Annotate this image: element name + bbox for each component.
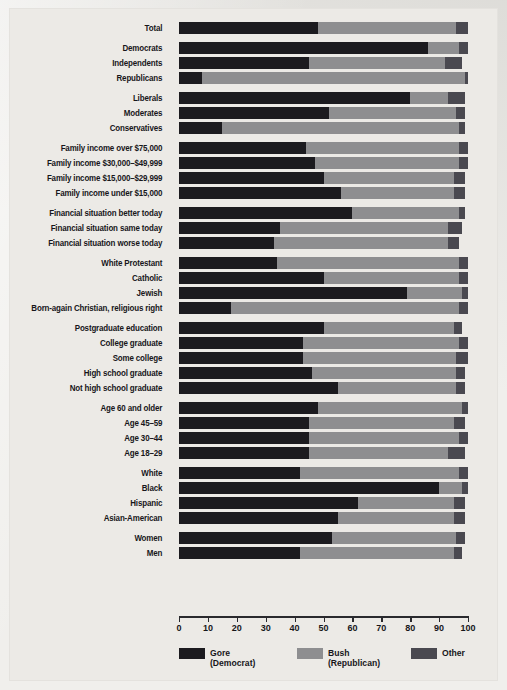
bar-segment-bush: [231, 302, 459, 314]
bar-row-label: Age 45–59: [15, 417, 169, 429]
bar-segment-other: [459, 337, 468, 349]
bar-segment-bush: [312, 367, 457, 379]
bar-segment-other: [454, 417, 466, 429]
bar-segment-gore: [179, 352, 303, 364]
bar-row: Women: [9, 532, 498, 544]
stacked-bar: [179, 287, 468, 299]
bar-row-label: Financial situation worse today: [15, 237, 169, 249]
x-axis-tick: [410, 616, 411, 622]
bar-row: Jewish: [9, 287, 498, 299]
stacked-bar: [179, 42, 468, 54]
x-axis: 0102030405060708090100: [179, 616, 468, 618]
bar-segment-other: [459, 432, 468, 444]
bar-row-label: Black: [15, 482, 169, 494]
bar-segment-gore: [179, 57, 309, 69]
bar-row: White Protestant: [9, 257, 498, 269]
bar-segment-other: [456, 382, 465, 394]
bar-segment-other: [459, 302, 468, 314]
x-axis-tick-label: 60: [347, 623, 357, 633]
bar-row-label: White Protestant: [15, 257, 169, 269]
bar-group-education: Postgraduate educationCollege graduateSo…: [9, 322, 498, 394]
bar-row: Asian-American: [9, 512, 498, 524]
bar-segment-bush: [324, 272, 460, 284]
legend-item-bush: Bush (Republican): [297, 648, 380, 668]
bar-segment-bush: [315, 157, 460, 169]
bar-row: Postgraduate education: [9, 322, 498, 334]
bar-row-label: Independents: [15, 57, 169, 69]
bar-segment-other: [448, 237, 460, 249]
stacked-bar: [179, 57, 468, 69]
bar-segment-bush: [306, 142, 459, 154]
bar-segment-other: [459, 207, 465, 219]
bar-segment-other: [456, 352, 468, 364]
bar-segment-gore: [179, 272, 324, 284]
x-axis-tick: [266, 616, 267, 622]
bar-segment-bush: [338, 512, 454, 524]
stacked-bar: [179, 142, 468, 154]
x-axis-tick: [179, 616, 180, 622]
bar-segment-gore: [179, 187, 341, 199]
x-axis-tick-label: 70: [376, 623, 386, 633]
bar-row-label: Asian-American: [15, 512, 169, 524]
bar-row: Democrats: [9, 42, 498, 54]
bar-row-label: Moderates: [15, 107, 169, 119]
bar-row-label: Conservatives: [15, 122, 169, 134]
bar-segment-bush: [309, 432, 459, 444]
x-axis-tick: [324, 616, 325, 622]
bar-row-label: Men: [15, 547, 169, 559]
bar-segment-bush: [358, 497, 453, 509]
bar-segment-other: [456, 107, 465, 119]
bar-segment-bush: [318, 22, 457, 34]
stacked-bar: [179, 322, 468, 334]
stacked-bar: [179, 532, 468, 544]
x-axis-tick-label: 90: [434, 623, 444, 633]
bar-segment-gore: [179, 207, 352, 219]
bar-segment-gore: [179, 172, 324, 184]
bar-segment-bush: [300, 547, 453, 559]
stacked-bar: [179, 512, 468, 524]
bar-segment-other: [459, 157, 468, 169]
stacked-bar: [179, 187, 468, 199]
stacked-bar: [179, 417, 468, 429]
stacked-bar: [179, 467, 468, 479]
bar-segment-bush: [318, 402, 463, 414]
plot-area: TotalDemocratsIndependentsRepublicansLib…: [9, 8, 498, 681]
bar-segment-gore: [179, 287, 407, 299]
bar-row: Conservatives: [9, 122, 498, 134]
bar-segment-gore: [179, 72, 202, 84]
bar-segment-gore: [179, 322, 324, 334]
bar-segment-bush: [428, 42, 460, 54]
bar-group-age: Age 60 and olderAge 45–59Age 30–44Age 18…: [9, 402, 498, 459]
bar-row-label: Family income over $75,000: [15, 142, 169, 154]
bar-row-label: Some college: [15, 352, 169, 364]
bar-segment-gore: [179, 92, 410, 104]
bar-row: Family income under $15,000: [9, 187, 498, 199]
x-axis-tick: [208, 616, 209, 622]
legend-swatch-bush: [297, 648, 323, 659]
bar-row: White: [9, 467, 498, 479]
bar-segment-bush: [309, 57, 445, 69]
x-axis-tick-label: 50: [318, 623, 328, 633]
bar-segment-gore: [179, 157, 315, 169]
bar-segment-gore: [179, 532, 332, 544]
chart-page: TotalDemocratsIndependentsRepublicansLib…: [0, 0, 507, 690]
legend-label-bush: Bush (Republican): [328, 648, 380, 668]
bar-segment-gore: [179, 382, 338, 394]
bar-row-label: Family income $30,000–$49,999: [15, 157, 169, 169]
bar-segment-other: [454, 322, 463, 334]
bar-row: Black: [9, 482, 498, 494]
bar-row: Not high school graduate: [9, 382, 498, 394]
stacked-bar: [179, 72, 468, 84]
bar-segment-other: [462, 287, 468, 299]
legend-name-bush: Bush: [328, 648, 349, 658]
stacked-bar: [179, 237, 468, 249]
x-axis-tick-label: 80: [405, 623, 415, 633]
bar-segment-gore: [179, 432, 309, 444]
bar-segment-gore: [179, 547, 300, 559]
bar-row-label: Liberals: [15, 92, 169, 104]
x-axis-tick-label: 20: [232, 623, 242, 633]
legend-sub-gore: (Democrat): [210, 658, 255, 668]
bar-row-label: White: [15, 467, 169, 479]
bar-group-financial-situation: Financial situation better todayFinancia…: [9, 207, 498, 249]
x-axis-tick: [381, 616, 382, 622]
